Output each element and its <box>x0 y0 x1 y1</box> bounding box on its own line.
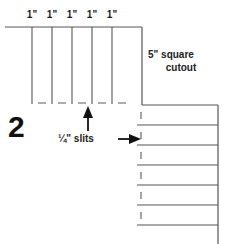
dimension-label-5: 1" <box>102 9 122 20</box>
right-arrow-icon <box>118 134 141 144</box>
cutout-annotation: 5" square cutout <box>148 48 228 74</box>
cutout-annotation-line1: 5" square <box>148 49 194 60</box>
step-number: 2 <box>8 112 25 142</box>
dimension-label-3: 1" <box>62 9 82 20</box>
figure-canvas: 1" 1" 1" 1" 1" 5" square cutout ¼" slits… <box>0 0 233 244</box>
diagram-svg <box>0 0 233 244</box>
slits-annotation: ¼" slits <box>58 133 94 144</box>
dimension-label-1: 1" <box>22 9 42 20</box>
dimension-label-4: 1" <box>82 9 102 20</box>
up-arrow-icon <box>83 106 93 131</box>
dimension-label-2: 1" <box>42 9 62 20</box>
cutout-annotation-line2: cutout <box>148 61 214 74</box>
